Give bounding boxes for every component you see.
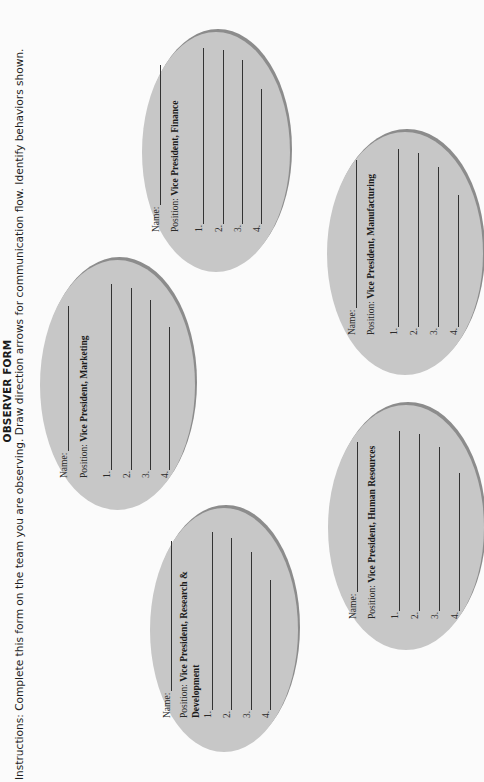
name-label: Name: — [162, 693, 172, 718]
item-number: 1. — [389, 328, 399, 335]
behavior-line-2[interactable]: 2. — [409, 153, 419, 335]
blank-line[interactable] — [429, 167, 439, 327]
blank-line[interactable] — [122, 288, 132, 470]
observee-card-research-development: Name: Position: Vice President, Research… — [150, 508, 298, 752]
behavior-line-2[interactable]: 2. — [122, 288, 132, 478]
blank-line[interactable] — [102, 284, 112, 470]
item-number: 4. — [160, 471, 170, 478]
name-label: Name: — [59, 453, 69, 478]
item-number: 1. — [390, 612, 400, 619]
item-number: 3. — [141, 471, 151, 478]
position-value: Vice President, Finance — [170, 101, 180, 196]
name-blank[interactable] — [348, 442, 358, 592]
item-number: 3. — [429, 328, 439, 335]
item-number: 2. — [122, 471, 132, 478]
behavior-line-3[interactable]: 3. — [242, 552, 252, 718]
observee-card-manufacturing: Name: Position: Vice President, Manufact… — [327, 132, 483, 375]
behavior-line-1[interactable]: 1. — [389, 149, 399, 335]
item-number: 2. — [214, 225, 224, 232]
position-label: Position: — [170, 196, 180, 232]
position-field: Position: Vice President, Manufacturing — [365, 174, 377, 335]
observee-card-finance: Name: Position: Vice President, Finance … — [142, 32, 290, 272]
name-blank[interactable] — [162, 541, 172, 691]
position-value: Vice President, Marketing — [79, 336, 89, 442]
blank-line[interactable] — [261, 580, 271, 710]
blank-line[interactable] — [222, 538, 232, 710]
blank-line[interactable] — [409, 153, 419, 327]
observee-card-marketing: Name: Position: Vice President, Marketin… — [40, 260, 195, 510]
position-field: Position: Vice President, Finance — [169, 101, 181, 232]
behavior-line-4[interactable]: 4. — [449, 195, 459, 335]
name-field: Name: — [151, 65, 161, 232]
name-label: Name: — [151, 207, 161, 232]
behavior-line-2[interactable]: 2. — [214, 50, 224, 232]
behavior-line-1[interactable]: 1. — [390, 431, 400, 619]
behavior-line-3[interactable]: 3. — [430, 447, 440, 619]
item-number: 4. — [252, 225, 262, 232]
behavior-line-3[interactable]: 3. — [141, 300, 151, 478]
item-number: 1. — [102, 471, 112, 478]
item-number: 4. — [449, 328, 459, 335]
item-number: 3. — [430, 612, 440, 619]
name-blank[interactable] — [151, 65, 161, 205]
blank-line[interactable] — [141, 300, 151, 470]
position-label: Position: — [179, 682, 189, 718]
position-value: Vice President, Human Resources — [367, 446, 377, 583]
position-field: Position: Vice President, Research & Dev… — [178, 543, 202, 718]
behavior-line-1[interactable]: 1. — [194, 48, 204, 232]
name-field: Name: — [348, 442, 358, 619]
position-field: Position: Vice President, Human Resource… — [366, 446, 378, 619]
blank-line[interactable] — [430, 447, 440, 611]
blank-line[interactable] — [233, 60, 243, 224]
item-number: 3. — [233, 225, 243, 232]
blank-line[interactable] — [252, 89, 262, 224]
item-number: 2. — [409, 328, 419, 335]
behavior-line-1[interactable]: 1. — [203, 532, 213, 718]
name-blank[interactable] — [59, 306, 69, 451]
behavior-line-1[interactable]: 1. — [102, 284, 112, 478]
blank-line[interactable] — [389, 149, 399, 327]
position-value: Vice President, Manufacturing — [366, 174, 376, 299]
behavior-line-3[interactable]: 3. — [233, 60, 243, 232]
form-instructions: Instructions: Complete this form on the … — [13, 0, 25, 780]
item-number: 1. — [203, 711, 213, 718]
name-field: Name: — [59, 306, 69, 478]
behavior-line-4[interactable]: 4. — [252, 89, 262, 232]
name-blank[interactable] — [347, 160, 357, 308]
blank-line[interactable] — [160, 327, 170, 470]
observee-card-human-resources: Name: Position: Vice President, Human Re… — [328, 405, 484, 650]
item-number: 1. — [194, 225, 204, 232]
behavior-line-4[interactable]: 4. — [160, 327, 170, 478]
blank-line[interactable] — [203, 532, 213, 710]
item-number: 2. — [222, 711, 232, 718]
item-number: 4. — [450, 612, 460, 619]
behavior-line-3[interactable]: 3. — [429, 167, 439, 335]
blank-line[interactable] — [450, 473, 460, 611]
blank-line[interactable] — [449, 195, 459, 327]
item-number: 2. — [410, 612, 420, 619]
blank-line[interactable] — [390, 431, 400, 611]
name-label: Name: — [348, 594, 358, 619]
position-label: Position: — [367, 583, 377, 619]
blank-line[interactable] — [410, 434, 420, 611]
position-label: Position: — [79, 442, 89, 478]
name-field: Name: — [347, 160, 357, 335]
position-field: Position: Vice President, Marketing — [78, 336, 90, 479]
item-number: 4. — [261, 711, 271, 718]
behavior-line-2[interactable]: 2. — [410, 434, 420, 619]
name-label: Name: — [347, 310, 357, 335]
form-title: OBSERVER FORM — [1, 0, 13, 782]
position-label: Position: — [366, 299, 376, 335]
blank-line[interactable] — [242, 552, 252, 710]
item-number: 3. — [242, 711, 252, 718]
blank-line[interactable] — [214, 50, 224, 224]
behavior-line-2[interactable]: 2. — [222, 538, 232, 718]
blank-line[interactable] — [194, 48, 204, 224]
name-field: Name: — [162, 541, 172, 718]
behavior-line-4[interactable]: 4. — [450, 473, 460, 619]
behavior-line-4[interactable]: 4. — [261, 580, 271, 718]
